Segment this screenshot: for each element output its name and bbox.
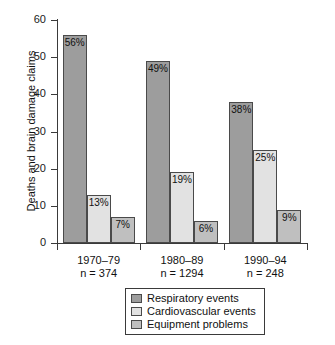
x-group-sample-size: n = 1294 <box>140 267 223 280</box>
x-group-period: 1980–89 <box>140 254 223 267</box>
y-tick-label: 30 <box>0 126 46 137</box>
x-group-sample-size: n = 374 <box>57 267 140 280</box>
y-tick-label: 60 <box>0 14 46 25</box>
bar[interactable]: 25% <box>253 150 277 243</box>
x-tick-mark <box>307 244 308 250</box>
bar-group: 38%25%9% <box>229 20 301 243</box>
y-tick-label: 0 <box>0 237 46 248</box>
bar-value-label: 6% <box>195 224 217 234</box>
bar[interactable]: 7% <box>111 217 135 243</box>
bar-value-label: 49% <box>147 64 169 74</box>
bar-value-label: 38% <box>230 105 252 115</box>
bar-value-label: 19% <box>171 175 193 185</box>
legend-item[interactable]: Cardiovascular events <box>131 305 256 318</box>
x-tick-mark <box>140 244 141 250</box>
x-group-period: 1970–79 <box>57 254 140 267</box>
bar-value-label: 13% <box>88 198 110 208</box>
y-tick-label: 40 <box>0 88 46 99</box>
legend-item-label: Equipment problems <box>147 319 248 330</box>
x-axis-line <box>57 243 308 244</box>
x-group-sample-size: n = 248 <box>224 267 307 280</box>
bar-group: 49%19%6% <box>146 20 218 243</box>
bar-value-label: 56% <box>64 38 86 48</box>
legend-swatch-icon <box>131 320 142 329</box>
bar[interactable]: 49% <box>146 61 170 243</box>
y-tick-label: 10 <box>0 200 46 211</box>
chart-title <box>0 0 335 1</box>
chart-legend: Respiratory eventsCardiovascular eventsE… <box>125 288 265 335</box>
bar-value-label: 25% <box>254 153 276 163</box>
x-group-label: 1970–79n = 374 <box>57 254 140 280</box>
x-group-period: 1990–94 <box>224 254 307 267</box>
bar[interactable]: 56% <box>63 35 87 243</box>
bar-group: 56%13%7% <box>63 20 135 243</box>
x-tick-mark <box>57 244 58 250</box>
x-tick-mark <box>224 244 225 250</box>
bar[interactable]: 13% <box>87 195 111 243</box>
bar[interactable]: 9% <box>277 210 301 243</box>
legend-item-label: Cardiovascular events <box>147 306 256 317</box>
y-tick-label: 50 <box>0 51 46 62</box>
x-group-label: 1980–89n = 1294 <box>140 254 223 280</box>
bar[interactable]: 19% <box>170 172 194 243</box>
bar[interactable]: 6% <box>194 221 218 243</box>
bar[interactable]: 38% <box>229 102 253 243</box>
y-tick-label: 20 <box>0 163 46 174</box>
legend-item-label: Respiratory events <box>147 293 239 304</box>
legend-item[interactable]: Respiratory events <box>131 292 256 305</box>
plot-area: 56%13%7%49%19%6%38%25%9% <box>57 20 307 243</box>
legend-swatch-icon <box>131 294 142 303</box>
legend-swatch-icon <box>131 307 142 316</box>
bar-value-label: 9% <box>278 213 300 223</box>
x-group-label: 1990–94n = 248 <box>224 254 307 280</box>
bar-value-label: 7% <box>112 220 134 230</box>
legend-item[interactable]: Equipment problems <box>131 318 256 331</box>
